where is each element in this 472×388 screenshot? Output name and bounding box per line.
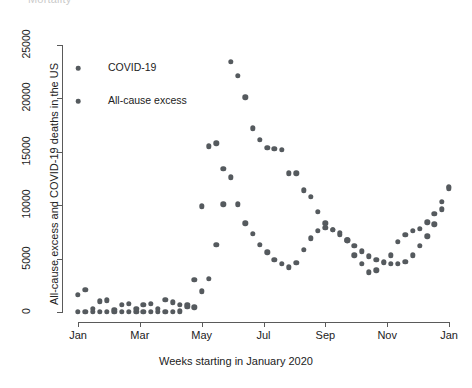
- cropped-title-sliver: Mortality: [28, 0, 71, 5]
- y-tick-label: 15000: [20, 125, 32, 177]
- data-point-covid: [417, 243, 422, 248]
- data-point-excess: [264, 145, 269, 150]
- data-point-excess: [148, 301, 153, 306]
- data-point-excess: [388, 253, 393, 258]
- legend-label-excess: All-cause excess: [108, 94, 187, 106]
- data-point-covid: [170, 309, 175, 314]
- data-point-covid: [119, 309, 124, 314]
- data-point-excess: [432, 211, 437, 216]
- data-point-covid: [148, 309, 153, 314]
- data-point-excess: [126, 301, 131, 306]
- data-point-covid: [439, 207, 444, 212]
- x-tick-mark: [78, 322, 79, 327]
- x-tick-label: Nov: [377, 329, 397, 341]
- data-point-covid: [279, 261, 284, 266]
- x-tick-label: Sep: [316, 329, 336, 341]
- data-point-excess: [344, 238, 349, 243]
- legend-marker-icon: [76, 99, 81, 104]
- data-point-excess: [235, 73, 240, 78]
- data-point-excess: [417, 226, 422, 231]
- data-point-covid: [359, 248, 364, 253]
- data-point-covid: [221, 166, 226, 171]
- data-point-excess: [119, 302, 124, 307]
- data-point-covid: [250, 231, 255, 236]
- data-point-covid: [352, 243, 357, 248]
- data-point-covid: [264, 249, 269, 254]
- data-point-excess: [279, 147, 284, 152]
- chart-root: Mortality 0500010000150002000025000 JanM…: [0, 0, 472, 388]
- data-point-covid: [206, 144, 211, 149]
- data-point-covid: [75, 309, 80, 314]
- data-point-excess: [286, 170, 291, 175]
- y-tick-label: 5000: [20, 232, 32, 284]
- data-point-excess: [403, 232, 408, 237]
- data-point-excess: [206, 276, 211, 281]
- data-point-covid: [315, 228, 320, 233]
- data-point-covid: [388, 261, 393, 266]
- data-point-covid: [97, 309, 102, 314]
- data-point-excess: [395, 239, 400, 244]
- data-point-covid: [366, 254, 371, 259]
- x-tick-label: Jan: [440, 329, 458, 341]
- data-point-covid: [308, 236, 313, 241]
- x-tick-label: Mar: [130, 329, 149, 341]
- data-point-excess: [199, 288, 204, 293]
- data-point-excess: [374, 268, 379, 273]
- data-point-covid: [272, 257, 277, 262]
- data-point-excess: [104, 298, 109, 303]
- y-axis-title: All-cause excess and COVID-19 deaths in …: [48, 34, 60, 334]
- data-point-excess: [243, 95, 248, 100]
- data-point-excess: [272, 146, 277, 151]
- data-point-covid: [228, 175, 233, 180]
- data-point-excess: [214, 242, 219, 247]
- data-point-excess: [359, 261, 364, 266]
- data-point-excess: [308, 194, 313, 199]
- data-point-excess: [221, 201, 226, 206]
- data-point-covid: [214, 141, 219, 146]
- y-tick-label: 0: [20, 285, 32, 337]
- x-axis-title: Weeks starting in January 2020: [0, 355, 472, 367]
- data-point-excess: [75, 292, 80, 297]
- legend-label-covid: COVID-19: [108, 61, 156, 73]
- data-point-covid: [432, 222, 437, 227]
- data-point-covid: [177, 309, 182, 314]
- data-point-excess: [257, 137, 262, 142]
- data-point-covid: [192, 277, 197, 282]
- data-point-excess: [97, 299, 102, 304]
- data-point-excess: [228, 59, 233, 64]
- data-point-covid: [83, 309, 88, 314]
- data-point-covid: [163, 309, 168, 314]
- data-point-excess: [352, 253, 357, 258]
- x-tick-mark: [140, 322, 141, 327]
- data-point-covid: [199, 204, 204, 209]
- data-point-covid: [243, 221, 248, 226]
- data-point-excess: [424, 220, 429, 225]
- data-point-covid: [126, 309, 131, 314]
- data-point-covid: [323, 225, 328, 230]
- data-point-excess: [250, 126, 255, 131]
- data-point-covid: [395, 261, 400, 266]
- y-tick-label: 20000: [20, 71, 32, 123]
- data-point-excess: [192, 304, 197, 309]
- x-tick-mark: [387, 322, 388, 327]
- y-tick-label: 25000: [20, 18, 32, 70]
- data-point-covid: [257, 242, 262, 247]
- data-point-covid: [294, 260, 299, 265]
- data-point-excess: [141, 302, 146, 307]
- data-point-excess: [330, 227, 335, 232]
- x-tick-label: Jul: [256, 329, 270, 341]
- data-point-excess: [294, 170, 299, 175]
- data-point-covid: [403, 259, 408, 264]
- data-point-covid: [424, 233, 429, 238]
- data-point-covid: [374, 257, 379, 262]
- data-point-covid: [286, 264, 291, 269]
- data-point-covid: [301, 247, 306, 252]
- x-tick-mark: [325, 322, 326, 327]
- data-point-covid: [235, 201, 240, 206]
- legend-marker-icon: [76, 66, 81, 71]
- data-point-excess: [163, 297, 168, 302]
- plot-area: [63, 45, 451, 312]
- data-point-covid: [141, 309, 146, 314]
- data-point-covid: [410, 253, 415, 258]
- data-point-excess: [410, 228, 415, 233]
